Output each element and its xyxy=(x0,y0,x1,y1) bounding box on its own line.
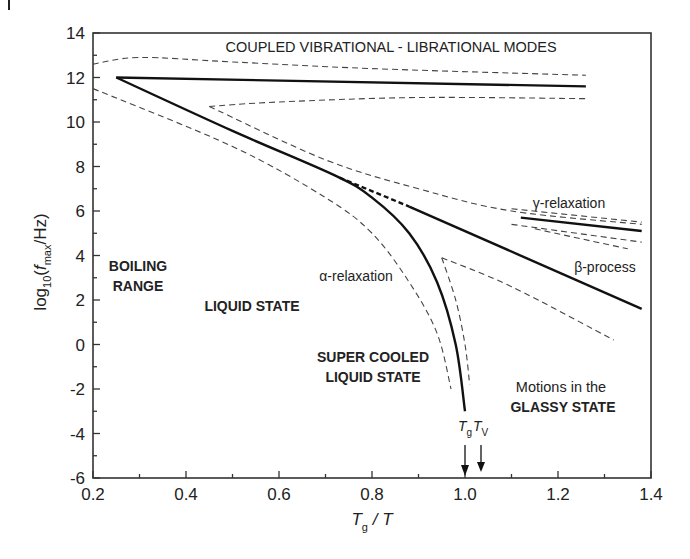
y-tick-label: -4 xyxy=(70,425,85,444)
tg-arrow-icon xyxy=(461,445,469,476)
range-label: RANGE xyxy=(113,278,164,294)
liquid-state-label: LIQUID STATE xyxy=(204,298,299,314)
x-tick-label: 1.0 xyxy=(453,485,477,504)
series-vibrational-lower-bound xyxy=(209,97,586,106)
alpha-label: α-relaxation xyxy=(319,268,392,284)
boiling-label: BOILING xyxy=(109,258,167,274)
x-tick-label: 0.4 xyxy=(174,485,198,504)
series-coupled-vibrational-librational-modes xyxy=(116,78,586,87)
y-tick-label: 10 xyxy=(66,113,85,132)
y-tick-label: 12 xyxy=(66,69,85,88)
x-tick-label: 0.6 xyxy=(267,485,291,504)
tv-marker-label: TV xyxy=(473,418,489,438)
supercooled-label-1: SUPER COOLED xyxy=(317,349,429,365)
y-tick-label: 4 xyxy=(76,247,85,266)
series-vibrational-upper-bound xyxy=(93,57,586,75)
series-gamma-relaxation-lower-bound xyxy=(512,224,642,242)
x-tick-label: 1.4 xyxy=(639,485,663,504)
gamma-label: γ-relaxation xyxy=(533,195,605,211)
series-gamma-relaxation xyxy=(521,218,642,231)
y-axis-title: log10(fmax/Hz) xyxy=(31,213,53,310)
glassy-label-1: Motions in the xyxy=(516,379,606,395)
y-tick-label: 14 xyxy=(66,24,85,43)
tv-arrow-icon xyxy=(477,445,485,472)
y-tick-label: 0 xyxy=(76,336,85,355)
series-alpha-relaxation-inner-bound xyxy=(442,258,470,385)
series-alpha-relaxation-outer-bound xyxy=(93,89,451,389)
beta-label: β-process xyxy=(574,259,636,275)
x-axis-title: Tg / T xyxy=(351,510,394,533)
supercooled-label-2: LIQUID STATE xyxy=(325,369,420,385)
relaxation-map-chart: 0.20.40.60.81.01.21.414121086420-2-4-6 C… xyxy=(0,0,690,559)
y-tick-label: 2 xyxy=(76,291,85,310)
series-beta-process-extension xyxy=(339,178,409,207)
tg-marker-label: Tg xyxy=(458,418,472,438)
glassy-label-2: GLASSY STATE xyxy=(510,399,615,415)
x-tick-label: 0.8 xyxy=(360,485,384,504)
y-tick-label: 6 xyxy=(76,202,85,221)
y-tick-label: -2 xyxy=(70,380,85,399)
x-tick-label: 1.2 xyxy=(546,485,570,504)
y-tick-label: -6 xyxy=(70,469,85,488)
y-tick-label: 8 xyxy=(76,158,85,177)
title-annotation: COUPLED VIBRATIONAL - LIBRATIONAL MODES xyxy=(225,39,556,55)
